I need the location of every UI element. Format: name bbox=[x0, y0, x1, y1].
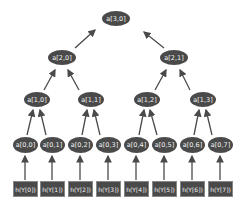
tree-node-level0: a[0,0] bbox=[13, 137, 38, 153]
leaf-hash-box: h(Y[5]) bbox=[152, 181, 177, 197]
leaf-hash-box: h(Y[4]) bbox=[124, 181, 149, 197]
tree-node-level0: a[0,3] bbox=[96, 137, 121, 153]
tree-node-level0: a[0,5] bbox=[152, 137, 177, 153]
tree-node-level1: a[1,3] bbox=[190, 92, 216, 107]
tree-node-level1: a[1,2] bbox=[134, 92, 160, 107]
tree-node-level1: a[1,0] bbox=[24, 92, 50, 107]
leaf-hash-box: h(Y[1]) bbox=[40, 181, 65, 197]
tree-node-level0: a[0,4] bbox=[124, 137, 149, 153]
leaf-hash-box: h(Y[6]) bbox=[180, 181, 205, 197]
tree-node-level2: a[2,1] bbox=[160, 50, 188, 65]
tree-node-level0: a[0,1] bbox=[40, 137, 65, 153]
tree-node-root: a[3,0] bbox=[102, 11, 130, 26]
tree-node-level1: a[1,1] bbox=[78, 92, 104, 107]
tree-node-level0: a[0,6] bbox=[180, 137, 205, 153]
leaf-hash-box: h(Y[2]) bbox=[68, 181, 93, 197]
leaf-hash-box: h(Y[0]) bbox=[13, 181, 38, 197]
tree-node-level0: a[0,2] bbox=[68, 137, 93, 153]
tree-node-level2: a[2,0] bbox=[48, 50, 76, 65]
tree-node-level0: a[0,7] bbox=[208, 137, 233, 153]
leaf-hash-box: h(Y[3]) bbox=[96, 181, 121, 197]
leaf-hash-box: h(Y[7]) bbox=[208, 181, 233, 197]
